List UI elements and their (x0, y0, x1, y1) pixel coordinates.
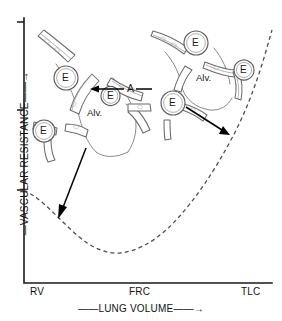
vascular-resistance-lung-volume-figure: E E E Alv. A E E E Alv. RV FRC TLC ——LUN… (0, 0, 282, 321)
alv-left-alveolus-label: Alv. (87, 108, 102, 118)
alv-left-e-label-2: E (40, 126, 47, 136)
vascular-resistance-curve (24, 30, 272, 253)
alv-left-capillary-upper-lumen (41, 34, 71, 59)
alv-left-e-label-3: E (107, 91, 114, 101)
x-tick-label-frc: FRC (129, 287, 150, 297)
alv-left-wall-3 (96, 152, 128, 157)
alv-right-capillary-down (164, 120, 171, 140)
x-tick-label-tlc: TLC (241, 287, 261, 297)
alv-left-capillary-down (44, 140, 55, 162)
alv-right-e-label-1: E (192, 38, 199, 48)
arrow-left-head (58, 204, 67, 219)
alv-left-capillary-lateral-right (65, 124, 88, 137)
alv-left-artery-label: A (127, 83, 134, 94)
alveolus-left-diagram (33, 30, 152, 162)
alv-right-e-label-2: E (169, 98, 176, 108)
x-tick-label-rv: RV (30, 287, 44, 297)
x-axis-title: ——LUNG VOLUME——→ (0, 303, 282, 314)
alv-right-e-label-3: E (240, 65, 247, 75)
y-axis-title: —VASCULAR RESISTANCE——→ (19, 22, 30, 286)
alv-right-alveolus-label: Alv. (196, 73, 211, 83)
axes-group (17, 18, 272, 283)
arrow-right-diagram-to-curve (186, 107, 222, 130)
figure-graphics (0, 0, 282, 321)
alv-left-e-label-1: E (62, 73, 69, 83)
resistance-curve-group (24, 30, 272, 253)
arrow-left-diagram-to-curve (62, 148, 86, 210)
arrow-right-head (219, 126, 230, 135)
